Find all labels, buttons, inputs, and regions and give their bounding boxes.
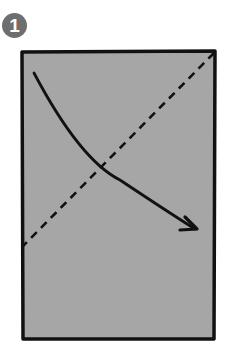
origami-diagram <box>0 0 231 353</box>
paper-sheet <box>22 51 215 339</box>
